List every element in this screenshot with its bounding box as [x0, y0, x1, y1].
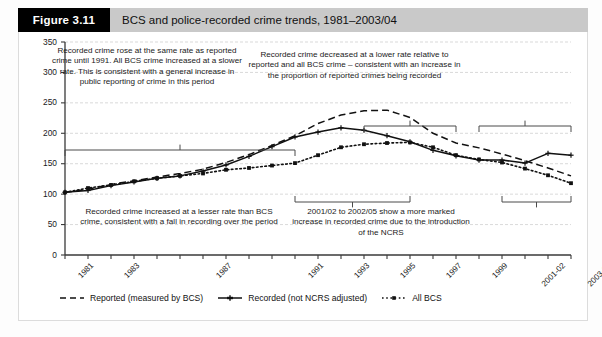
annotation-top-left: Recorded crime rose at the same rate as …	[51, 46, 243, 88]
legend-line-sample	[217, 293, 243, 303]
legend-label: Reported (measured by BCS)	[90, 293, 203, 303]
data-point-marker	[86, 186, 90, 190]
legend-label: All BCS	[412, 293, 442, 303]
data-point-marker	[408, 141, 412, 145]
annotation-bottom-right: 2001/02 to 2002/05 show a more marked in…	[291, 207, 471, 238]
y-tick-label: 350	[31, 37, 57, 47]
data-point-marker	[247, 166, 251, 170]
annotation-bracket	[502, 196, 571, 202]
data-point-marker	[431, 145, 435, 149]
data-point-marker	[316, 153, 320, 157]
figure-container: Figure 3.11 BCS and police-recorded crim…	[0, 0, 602, 337]
y-tick-label: 150	[31, 158, 57, 168]
series-line	[65, 128, 571, 193]
chart-legend: Reported (measured by BCS)Recorded (not …	[59, 288, 579, 308]
figure-header: Figure 3.11 BCS and police-recorded crim…	[18, 8, 588, 32]
data-point-marker	[546, 173, 550, 177]
data-point-marker	[132, 179, 136, 183]
chart-area: 050100150200250300350 198119831987199119…	[19, 32, 589, 321]
data-point-marker	[385, 141, 389, 145]
y-tick-label: 50	[31, 219, 57, 229]
legend-item[interactable]: Recorded (not NCRS adjusted)	[217, 293, 367, 303]
annotation-bracket	[479, 126, 571, 132]
data-point-marker	[500, 161, 504, 165]
data-point-marker	[569, 181, 573, 185]
annotation-top-right: Recorded crime decreased at a lower rate…	[247, 50, 462, 81]
data-point-marker	[523, 167, 527, 171]
data-point-marker	[178, 174, 182, 178]
annotation-bracket	[364, 126, 456, 132]
y-tick-label: 100	[31, 189, 57, 199]
data-point-marker	[477, 158, 481, 162]
data-point-marker	[362, 142, 366, 146]
annotation-bracket	[295, 196, 410, 202]
data-point-marker	[63, 190, 67, 194]
data-point-marker	[224, 168, 228, 172]
data-point-marker	[454, 153, 458, 157]
y-tick-label: 250	[31, 97, 57, 107]
legend-item[interactable]: Reported (measured by BCS)	[59, 293, 203, 303]
legend-label: Recorded (not NCRS adjusted)	[248, 293, 367, 303]
legend-item[interactable]: All BCS	[381, 293, 442, 303]
data-point-marker	[109, 183, 113, 187]
data-point-marker	[293, 161, 297, 165]
data-point-marker	[155, 176, 159, 180]
figure-title: BCS and police-recorded crime trends, 19…	[110, 8, 588, 32]
y-tick-label: 0	[31, 250, 57, 260]
legend-line-sample	[59, 293, 85, 303]
data-point-marker	[339, 145, 343, 149]
data-point-marker	[270, 164, 274, 168]
figure-number: Figure 3.11	[18, 8, 110, 32]
annotation-bottom-left: Recorded crime increased at a lesser rat…	[79, 207, 279, 228]
y-tick-label: 200	[31, 128, 57, 138]
data-point-marker	[201, 172, 205, 176]
figure-body: 050100150200250300350 198119831987199119…	[18, 32, 588, 321]
legend-line-sample	[381, 293, 407, 303]
